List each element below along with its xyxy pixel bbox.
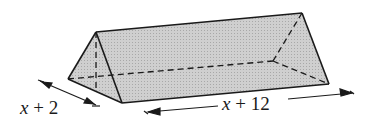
prism-diagram: x + 2 x + 12 xyxy=(0,0,369,124)
length-label: x + 12 xyxy=(221,93,270,114)
width-label: x + 2 xyxy=(19,97,58,118)
